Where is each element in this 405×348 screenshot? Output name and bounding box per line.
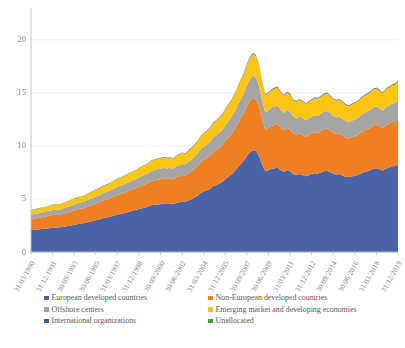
stacked-area-chart: 05101520 31/03/199031/12/199130/09/19933… [0, 0, 405, 348]
plot-area [0, 0, 405, 260]
y-tick-label: 5 [4, 194, 26, 203]
legend-label: International organizations [52, 317, 137, 325]
legend-swatch-icon [208, 307, 213, 312]
legend-swatch-icon [44, 319, 49, 324]
legend-label: Emerging market and developing economies [216, 306, 357, 314]
legend-item[interactable]: Emerging market and developing economies [208, 306, 356, 314]
chart-legend: European developed countriesNon-European… [0, 292, 405, 332]
legend-item[interactable]: Unallocated [208, 317, 254, 325]
legend-label: Unallocated [216, 317, 254, 325]
y-tick-label: 0 [4, 248, 26, 257]
y-tick-label: 20 [4, 35, 26, 44]
y-tick-label: 15 [4, 88, 26, 97]
legend-swatch-icon [208, 296, 213, 301]
legend-item[interactable]: Non-European developed countries [208, 294, 327, 302]
legend-item[interactable]: International organizations [44, 317, 136, 325]
y-tick-label: 10 [4, 141, 26, 150]
plot-svg [0, 0, 405, 260]
legend-swatch-icon [208, 319, 213, 324]
legend-label: Non-European developed countries [216, 294, 328, 302]
legend-item[interactable]: European developed countries [44, 294, 147, 302]
legend-swatch-icon [44, 307, 49, 312]
legend-label: European developed countries [52, 294, 148, 302]
legend-item[interactable]: Offshore centers [44, 306, 104, 314]
legend-swatch-icon [44, 296, 49, 301]
legend-label: Offshore centers [52, 306, 104, 314]
